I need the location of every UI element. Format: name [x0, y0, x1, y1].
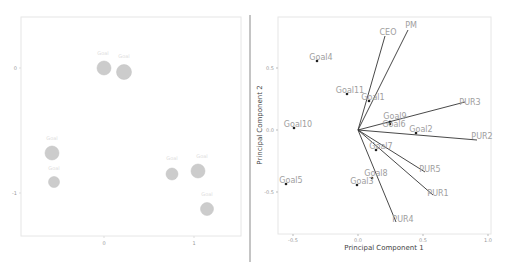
- data-point: [97, 61, 111, 75]
- point-label: Goal7: [369, 142, 392, 151]
- point-label: Goal6: [382, 120, 405, 129]
- x-tick-label: 1.0: [484, 237, 492, 243]
- data-point: [201, 203, 214, 216]
- y-tick-label: 0.0: [266, 127, 274, 133]
- x-tick-label: 0: [102, 240, 105, 246]
- pca-biplot: 0.5 0.0 -0.5 -0.5 0.0 0.5 1.0 Principal …: [256, 17, 493, 252]
- vector-label: PUR2: [471, 132, 492, 141]
- point-label: Goal: [118, 53, 129, 59]
- point-label: Goal: [46, 135, 57, 141]
- vector-label: PUR3: [459, 98, 480, 107]
- point-label: Goal: [48, 165, 59, 171]
- x-tick-label: 0.5: [419, 237, 427, 243]
- vector-label: PUR5: [419, 165, 440, 174]
- y-tick-label: -1: [12, 190, 17, 196]
- left-scatter-plot: 0 -1 0 1 Goal Goal Goal Goal Goal Goal G…: [12, 17, 241, 246]
- vector-label: PUR4: [392, 215, 413, 224]
- data-point: [45, 146, 59, 160]
- point-label: Goal2: [409, 125, 432, 134]
- y-tick-label: -0.5: [264, 189, 274, 195]
- x-axis-label: Principal Component 1: [344, 244, 423, 252]
- vector-label: PUR1: [427, 189, 448, 198]
- point-label: Goal3: [350, 177, 373, 186]
- x-tick-label: 0.0: [354, 237, 362, 243]
- data-point: [49, 177, 60, 188]
- point-label: Goal1: [361, 93, 384, 102]
- point-label: Goal4: [309, 53, 332, 62]
- data-point: [191, 164, 205, 178]
- point-label: Goal5: [279, 176, 302, 185]
- vector-label: PM: [405, 21, 417, 30]
- figure: 0 -1 0 1 Goal Goal Goal Goal Goal Goal G…: [0, 0, 507, 268]
- point-label: Goal: [201, 191, 212, 197]
- point-label: Goal: [196, 153, 207, 159]
- point-label: Goal11: [336, 86, 364, 95]
- data-point: [166, 168, 178, 180]
- y-axis-label: Principal Component 2: [256, 85, 264, 164]
- point-label: Goal10: [284, 120, 312, 129]
- vector-label: CEO: [380, 28, 397, 37]
- data-point: [117, 65, 132, 80]
- x-tick-label: 1: [192, 240, 195, 246]
- point-label: Goal: [97, 50, 108, 56]
- y-tick-label: 0.5: [266, 65, 274, 71]
- point-label: Goal: [166, 155, 177, 161]
- y-tick-label: 0: [14, 65, 17, 71]
- x-tick-label: -0.5: [288, 237, 298, 243]
